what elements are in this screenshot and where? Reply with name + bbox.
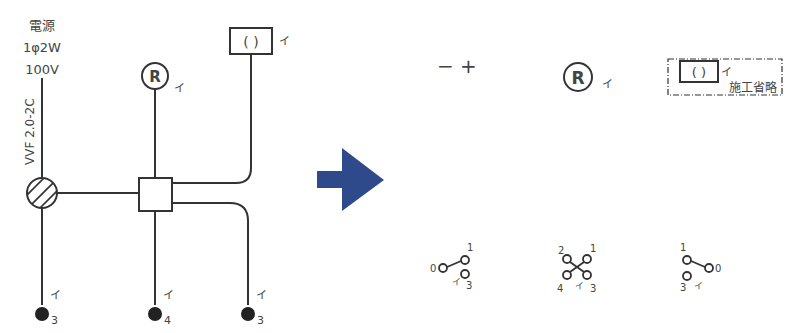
svg-text:3: 3 [590,283,596,294]
svg-text:4: 4 [557,283,563,294]
receptacle-label: イ [602,78,613,91]
switch-3way-left: 0 1 3 イ [430,242,473,291]
svg-text:0: 0 [715,263,721,274]
switch-4way: 2 1 4 3 イ [557,243,596,294]
switch-1-type: 3 [51,314,58,327]
switch-2: イ 4 [148,289,174,327]
receptacle-letter: R [149,68,161,86]
wiring-diagram: 電源 1φ2W 100V VVF 2.0-2C R イ [0,0,800,333]
switch-1: イ 3 [35,289,61,327]
polarity-label: − + [437,54,477,78]
svg-text:イ: イ [575,281,584,291]
omit-label: 施工省略 [729,80,777,95]
svg-text:3: 3 [680,282,686,293]
lamp-label: イ [279,35,290,48]
svg-text:0: 0 [430,263,436,274]
receptacle-letter: R [571,68,584,88]
switch-dot-icon [241,307,255,321]
switch-1-label: イ [50,289,61,302]
svg-text:イ: イ [694,281,703,291]
junction-box [139,178,172,211]
svg-text:1: 1 [467,242,473,253]
switch-dot-icon [35,307,49,321]
switch-dot-icon [148,307,162,321]
cable-label: VVF 2.0-2C [23,98,37,165]
switch-3: イ 3 [241,289,267,327]
left-diagram: 電源 1φ2W 100V VVF 2.0-2C R イ [22,18,290,327]
right-diagram: − + R イ ( ) イ 施工省略 0 1 3 イ [430,54,782,294]
switch3-wire [172,203,248,305]
svg-text:2: 2 [558,245,564,256]
arrow-right-icon [317,148,384,211]
receptacle-label: イ [174,82,185,95]
svg-text:1: 1 [590,243,596,254]
lamp-label: イ [721,66,732,79]
switch-3-label: イ [256,289,267,302]
svg-text:イ: イ [452,277,461,287]
switch-2-type: 4 [164,314,171,327]
svg-text:1: 1 [680,242,686,253]
lamp-glyph: ( ) [692,65,706,80]
switch-3way-right: 1 0 3 イ [680,242,721,293]
svg-text:3: 3 [466,280,472,291]
source-spec: 1φ2W [23,40,61,55]
lamp-wire [172,54,251,183]
switch-2-label: イ [163,289,174,302]
source-voltage: 100V [25,62,59,77]
switch-3-type: 3 [257,314,264,327]
source-label: 電源 [29,18,55,33]
lamp-glyph: ( ) [243,34,258,50]
